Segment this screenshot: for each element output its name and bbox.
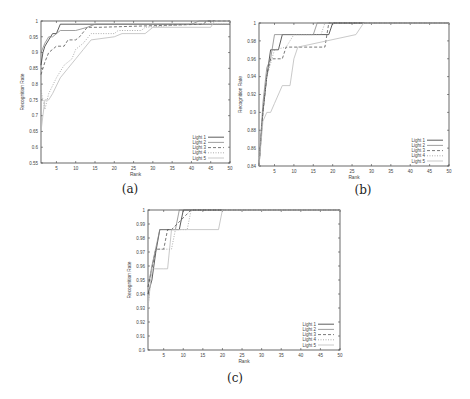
series-line xyxy=(148,210,340,287)
y-tick-label: 0.9 xyxy=(139,348,146,353)
y-tick-label: 0.8 xyxy=(32,82,39,87)
caption-a: (a) xyxy=(110,182,150,196)
y-tick-label: 0.97 xyxy=(136,250,145,255)
legend-label: Light 5 xyxy=(192,156,206,161)
y-tick-label: 0.85 xyxy=(29,66,38,71)
x-tick-label: 5 xyxy=(55,166,58,171)
chart-b-svg: 0.840.860.880.90.920.940.960.98151015202… xyxy=(235,0,470,180)
x-tick-label: 25 xyxy=(350,169,356,174)
y-tick-label: 0.55 xyxy=(29,161,38,166)
y-tick-label: 0.95 xyxy=(136,278,145,283)
x-tick-label: 35 xyxy=(388,169,394,174)
x-tick-label: 40 xyxy=(298,353,304,358)
x-tick-label: 20 xyxy=(112,166,118,171)
x-tick-label: 40 xyxy=(189,166,195,171)
y-tick-label: 1 xyxy=(142,208,145,213)
x-tick-label: 35 xyxy=(170,166,176,171)
x-tick-label: 25 xyxy=(131,166,137,171)
y-tick-label: 0.9 xyxy=(250,110,257,115)
y-tick-label: 0.86 xyxy=(247,146,256,151)
x-tick-label: 15 xyxy=(311,169,317,174)
series-line xyxy=(41,21,230,131)
x-tick-label: 45 xyxy=(427,169,433,174)
x-tick-label: 15 xyxy=(200,353,206,358)
y-axis-label: Recognition Rate xyxy=(20,73,25,110)
chart-panel-b: 0.840.860.880.90.920.940.960.98151015202… xyxy=(235,0,470,180)
x-tick-label: 30 xyxy=(150,166,156,171)
x-tick-label: 50 xyxy=(337,353,343,358)
y-tick-label: 0.92 xyxy=(136,320,145,325)
x-tick-label: 50 xyxy=(446,169,452,174)
y-tick-label: 0.94 xyxy=(247,74,256,79)
chart-a-svg: 0.550.60.650.70.750.80.850.90.9515101520… xyxy=(0,0,235,180)
chart-panel-c: 0.90.910.920.930.940.950.960.970.980.991… xyxy=(115,195,355,370)
x-tick-label: 45 xyxy=(208,166,214,171)
x-tick-label: 5 xyxy=(162,353,165,358)
y-axis-label: Recognition Rate xyxy=(127,261,132,298)
x-tick-label: 35 xyxy=(279,353,285,358)
y-tick-label: 0.75 xyxy=(29,98,38,103)
series-line xyxy=(41,21,230,53)
x-tick-label: 10 xyxy=(181,353,187,358)
y-tick-label: 0.93 xyxy=(136,306,145,311)
legend-label: Light 5 xyxy=(411,159,425,164)
y-tick-label: 0.94 xyxy=(136,292,145,297)
y-tick-label: 0.99 xyxy=(136,222,145,227)
x-tick-label: 40 xyxy=(408,169,414,174)
x-tick-label: 10 xyxy=(73,166,79,171)
y-tick-label: 0.91 xyxy=(136,334,145,339)
x-tick-label: 30 xyxy=(369,169,375,174)
caption-c: (c) xyxy=(215,371,255,385)
y-tick-label: 1 xyxy=(253,21,256,26)
y-tick-label: 0.9 xyxy=(32,50,39,55)
y-tick-label: 0.84 xyxy=(247,164,256,169)
y-tick-label: 1 xyxy=(35,19,38,24)
y-tick-label: 0.7 xyxy=(32,113,39,118)
y-tick-label: 0.96 xyxy=(136,264,145,269)
chart-panel-a: 0.550.60.650.70.750.80.850.90.9515101520… xyxy=(0,0,235,180)
x-tick-label: 30 xyxy=(259,353,265,358)
x-tick-label: 20 xyxy=(330,169,336,174)
x-axis-label: Rank xyxy=(130,172,142,177)
x-axis-label: Rank xyxy=(238,359,250,364)
x-axis-label: Rank xyxy=(348,175,360,180)
y-tick-label: 0.88 xyxy=(247,128,256,133)
x-tick-label: 15 xyxy=(92,166,98,171)
chart-c-svg: 0.90.910.920.930.940.950.960.970.980.991… xyxy=(115,195,355,370)
legend-label: Light 5 xyxy=(302,343,316,348)
y-tick-label: 0.98 xyxy=(136,236,145,241)
x-tick-label: 45 xyxy=(318,353,324,358)
y-tick-label: 0.92 xyxy=(247,92,256,97)
y-tick-label: 0.65 xyxy=(29,129,38,134)
x-tick-label: 5 xyxy=(273,169,276,174)
y-tick-label: 0.6 xyxy=(32,145,39,150)
y-tick-label: 0.95 xyxy=(29,35,38,40)
y-tick-label: 0.98 xyxy=(247,39,256,44)
x-tick-label: 50 xyxy=(227,166,233,171)
x-tick-label: 10 xyxy=(291,169,297,174)
x-tick-label: 20 xyxy=(220,353,226,358)
y-tick-label: 0.96 xyxy=(247,57,256,62)
y-axis-label: Recognition Rate xyxy=(238,76,243,113)
x-tick-label: 25 xyxy=(240,353,246,358)
